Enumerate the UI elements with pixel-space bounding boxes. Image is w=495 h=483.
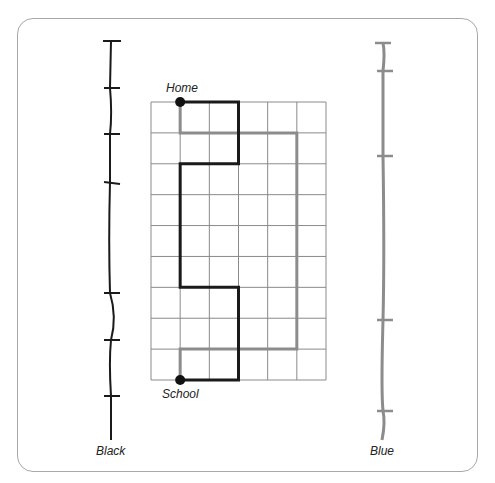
blue-string-label: Blue [370,444,394,458]
black-string [109,41,114,440]
route-diagram [0,0,495,483]
home-dot-icon [175,97,185,107]
black-string-tick [104,182,120,184]
black-string-label: Black [96,444,125,458]
blue-string [382,43,384,440]
school-dot-icon [175,375,185,385]
school-label: School [162,387,199,401]
home-label: Home [166,81,198,95]
